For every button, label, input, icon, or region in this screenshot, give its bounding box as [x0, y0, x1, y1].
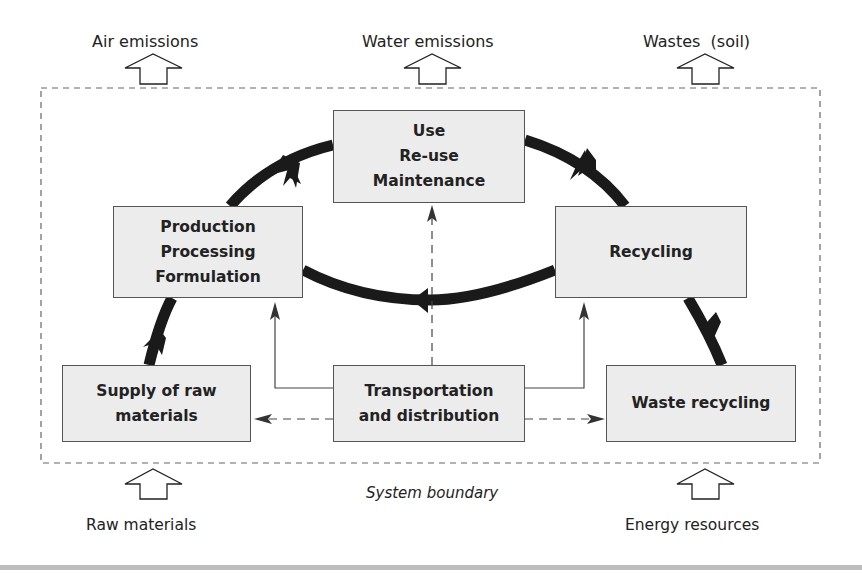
- air-emissions-label: Air emissions: [92, 32, 198, 51]
- wastes-arrow: [677, 54, 734, 84]
- stage-transport-line1: Transportation: [365, 379, 494, 404]
- stage-supply-line1: Supply of raw: [96, 379, 216, 404]
- stage-use-line3: Maintenance: [373, 169, 485, 194]
- stage-production: Production Processing Formulation: [113, 206, 303, 298]
- stage-production-line2: Processing: [160, 240, 255, 265]
- stage-supply: Supply of raw materials: [62, 365, 251, 442]
- bottom-rule: [0, 565, 862, 570]
- stage-supply-line2: materials: [115, 404, 198, 429]
- raw-materials-label: Raw materials: [86, 516, 196, 534]
- stage-production-line3: Formulation: [155, 265, 261, 290]
- water-emission-arrow: [404, 54, 461, 84]
- stage-recycling-line1: Recycling: [609, 240, 693, 265]
- system-boundary-label: System boundary: [366, 484, 498, 502]
- stage-waste-recycling: Waste recycling: [606, 365, 796, 442]
- stage-use-line1: Use: [413, 119, 445, 144]
- stage-transport-line2: and distribution: [359, 404, 500, 429]
- stage-production-line1: Production: [160, 215, 255, 240]
- stage-use-line2: Re-use: [399, 144, 459, 169]
- stage-waste-line1: Waste recycling: [632, 391, 771, 416]
- stage-recycling: Recycling: [555, 206, 747, 298]
- energy-resources-arrow: [677, 469, 734, 499]
- raw-materials-arrow: [125, 469, 182, 499]
- air-emission-arrow: [125, 54, 182, 84]
- wastes-soil-label: Wastes (soil): [643, 32, 750, 51]
- energy-resources-label: Energy resources: [625, 516, 759, 534]
- stage-use: Use Re-use Maintenance: [333, 110, 525, 203]
- stage-transport: Transportation and distribution: [333, 365, 525, 442]
- water-emissions-label: Water emissions: [362, 32, 494, 51]
